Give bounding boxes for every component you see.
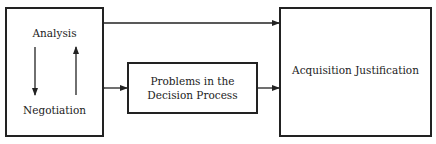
middle-label-line2: Decision Process bbox=[127, 89, 258, 102]
middle-label-line1: Problems in the bbox=[127, 75, 258, 88]
acquisition-justification-label: Acquisition Justification bbox=[279, 64, 432, 77]
middle-box bbox=[127, 62, 258, 114]
